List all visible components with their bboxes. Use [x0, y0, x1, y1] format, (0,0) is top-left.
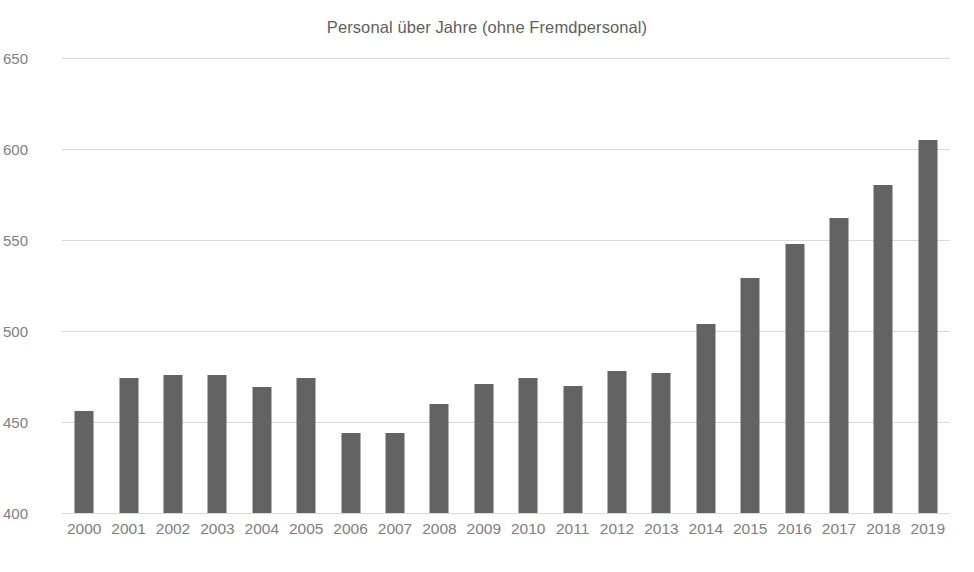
bar-slot [639, 58, 683, 513]
bar-2018[interactable] [874, 185, 893, 513]
x-axis-tick-label-2018: 2018 [866, 520, 900, 538]
plot-area: 400450500550600650 200020012002200320042… [62, 58, 950, 513]
y-axis-tick-label: 650 [0, 50, 28, 67]
y-axis-tick-label: 600 [0, 141, 28, 158]
x-axis-tick-label-2012: 2012 [600, 520, 634, 538]
bars-group: 2000200120022003200420052006200720082009… [62, 58, 950, 513]
x-axis-tick-label-2001: 2001 [111, 520, 145, 538]
x-axis-tick-label-2011: 2011 [556, 520, 589, 538]
x-axis-tick-label-2015: 2015 [733, 520, 767, 538]
bar-2010[interactable] [519, 378, 538, 513]
y-axis-tick-label: 500 [0, 323, 28, 340]
bar-2003[interactable] [208, 375, 227, 513]
bar-slot [151, 58, 195, 513]
bar-slot [728, 58, 772, 513]
x-axis-tick-label-2019: 2019 [911, 520, 945, 538]
bar-slot [684, 58, 728, 513]
bar-2007[interactable] [385, 433, 404, 513]
chart-title: Personal über Jahre (ohne Fremdpersonal) [0, 18, 974, 37]
x-axis-tick-label-2014: 2014 [689, 520, 723, 538]
bar-2009[interactable] [474, 384, 493, 513]
bar-slot [506, 58, 550, 513]
bar-slot [817, 58, 861, 513]
bar-slot [106, 58, 150, 513]
bar-2000[interactable] [75, 411, 94, 513]
bar-2001[interactable] [119, 378, 138, 513]
bar-2013[interactable] [652, 373, 671, 513]
bar-2017[interactable] [829, 218, 848, 513]
bar-slot [861, 58, 905, 513]
bar-2002[interactable] [163, 375, 182, 513]
bar-slot [240, 58, 284, 513]
x-axis-tick-label-2004: 2004 [245, 520, 279, 538]
bar-2019[interactable] [918, 140, 937, 513]
bar-2016[interactable] [785, 244, 804, 513]
y-axis-tick-label: 400 [0, 505, 28, 522]
x-axis-tick-label-2013: 2013 [644, 520, 678, 538]
x-axis-tick-label-2000: 2000 [67, 520, 101, 538]
x-axis-tick-label-2002: 2002 [156, 520, 190, 538]
gridline-400 [62, 513, 950, 514]
bar-slot [550, 58, 594, 513]
bar-slot [284, 58, 328, 513]
bar-slot [772, 58, 816, 513]
x-axis-tick-label-2008: 2008 [422, 520, 456, 538]
x-axis-tick-label-2010: 2010 [511, 520, 545, 538]
bar-2011[interactable] [563, 386, 582, 513]
x-axis-tick-label-2009: 2009 [467, 520, 501, 538]
bar-2008[interactable] [430, 404, 449, 513]
bar-2004[interactable] [252, 387, 271, 513]
x-axis-tick-label-2003: 2003 [200, 520, 234, 538]
x-axis-tick-label-2007: 2007 [378, 520, 412, 538]
bar-slot [373, 58, 417, 513]
bar-slot [328, 58, 372, 513]
x-axis-tick-label-2016: 2016 [777, 520, 811, 538]
bar-slot [417, 58, 461, 513]
bar-slot [195, 58, 239, 513]
bar-2015[interactable] [741, 278, 760, 513]
y-axis-tick-label: 450 [0, 414, 28, 431]
x-axis-tick-label-2006: 2006 [333, 520, 367, 538]
bar-2005[interactable] [297, 378, 316, 513]
x-axis-tick-label-2005: 2005 [289, 520, 323, 538]
bar-slot [906, 58, 950, 513]
bar-2014[interactable] [696, 324, 715, 513]
x-axis-tick-label-2017: 2017 [822, 520, 856, 538]
bar-slot [595, 58, 639, 513]
y-axis-tick-label: 550 [0, 232, 28, 249]
bar-2012[interactable] [607, 371, 626, 513]
bar-slot [62, 58, 106, 513]
bar-slot [462, 58, 506, 513]
bar-2006[interactable] [341, 433, 360, 513]
chart-container: Personal über Jahre (ohne Fremdpersonal)… [0, 0, 974, 572]
